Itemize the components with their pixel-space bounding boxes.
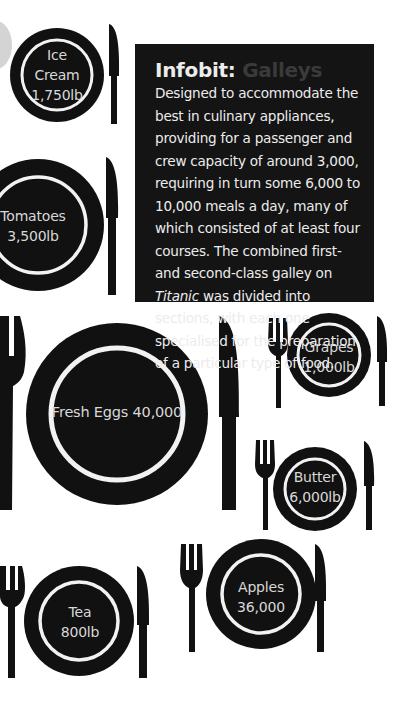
label-line: Apples <box>237 577 285 597</box>
fork-icon <box>0 566 25 678</box>
label-line: Ice <box>31 45 82 65</box>
plate-label-ice-cream: Ice Cream 1,750lb <box>31 45 82 105</box>
infobit-title-accent: Galleys <box>242 58 322 82</box>
infobit-title: Infobit: Galleys <box>155 58 362 82</box>
infobit-title-prefix: Infobit: <box>155 58 235 82</box>
infobit-body-italic: Titanic <box>155 288 199 304</box>
fork-icon <box>180 544 203 652</box>
knife-icon <box>137 566 149 678</box>
label-line: 800lb <box>61 622 100 642</box>
plate-label-tea: Tea 800lb <box>61 602 100 642</box>
label-line: 3,500lb <box>0 226 65 246</box>
plate-label-butter: Butter 6,000lb <box>289 467 340 507</box>
knife-icon <box>377 316 387 406</box>
fork-icon <box>0 316 26 510</box>
label-line: 6,000lb <box>289 487 340 507</box>
label-line: Butter <box>289 467 340 487</box>
label-line: 1,750lb <box>31 85 82 105</box>
label-line: Cream <box>31 65 82 85</box>
plate-label-tomatoes: Tomatoes 3,500lb <box>0 206 65 246</box>
label-line: 36,000 <box>237 597 285 617</box>
plate-label-apples: Apples 36,000 <box>237 577 285 617</box>
knife-icon <box>315 544 326 652</box>
label-line: Tomatoes <box>0 206 65 226</box>
partial-gray-plate-shape <box>0 21 12 69</box>
fork-icon <box>255 440 275 530</box>
infobit-body-text: Designed to accommodate the best in culi… <box>155 85 360 281</box>
plate-label-fresh-eggs: Fresh Eggs 40,000 <box>52 402 182 422</box>
label-line: Fresh Eggs 40,000 <box>52 402 182 422</box>
knife-icon <box>106 157 118 295</box>
knife-icon <box>109 24 119 124</box>
label-line: Tea <box>61 602 100 622</box>
infobit-body: Designed to accommodate the best in culi… <box>155 82 362 375</box>
knife-icon <box>364 441 374 530</box>
infobit-box: Infobit: Galleys Designed to accommodate… <box>135 44 374 302</box>
